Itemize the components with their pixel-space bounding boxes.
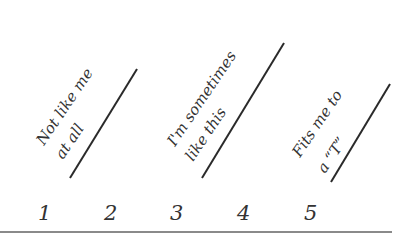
- scale-number-4: 4: [236, 201, 250, 225]
- rating-scale-diagram: Not like me at all I'm sometimes like th…: [0, 0, 409, 233]
- anchor-not-like-me: Not like me at all: [32, 65, 137, 178]
- anchor-fits-me: Fits me to a “T”: [288, 84, 390, 182]
- scale-number-1: 1: [38, 201, 51, 225]
- scale-number-5: 5: [304, 201, 317, 225]
- anchor-3-line2: a “T”: [313, 134, 350, 176]
- scale-number-2: 2: [103, 201, 117, 225]
- anchor-sometimes: I'm sometimes like this: [163, 43, 284, 178]
- scale-number-3: 3: [170, 201, 183, 225]
